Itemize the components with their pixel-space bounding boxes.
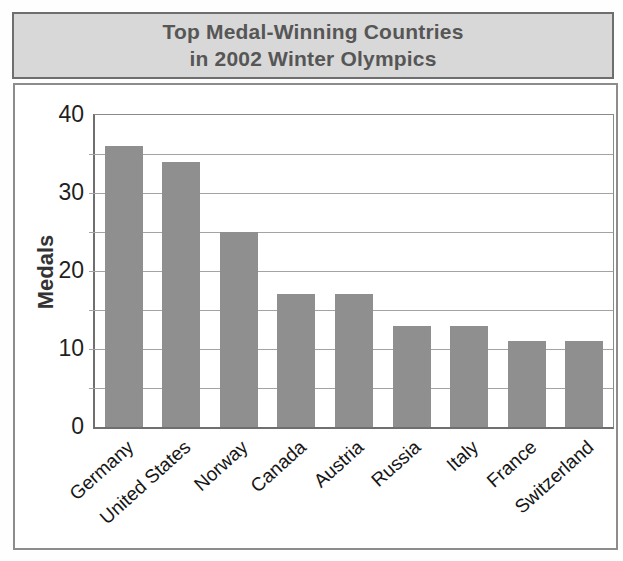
x-axis-label-austria: Austria [310,437,367,491]
bar-canada [277,294,315,427]
x-axis-label-canada: Canada [247,437,309,496]
bar-italy [450,326,488,427]
y-tick-label-40: 40 [28,103,84,126]
bar-germany [105,146,143,427]
gridline-35 [89,154,613,155]
x-axis-label-russia: Russia [368,437,424,490]
bar-switzerland [565,341,603,427]
bar-norway [220,232,258,427]
bar-france [508,341,546,427]
x-axis-label-italy: Italy [443,437,482,474]
chart-figure: Top Medal-Winning Countries in 2002 Wint… [0,0,623,561]
y-tick-label-30: 30 [28,181,84,204]
chart-box: Medals 010203040 GermanyUnited StatesNor… [13,83,618,550]
chart-title-box: Top Medal-Winning Countries in 2002 Wint… [12,12,614,79]
bar-austria [335,294,373,427]
plot-area [93,114,614,429]
y-tick-label-0: 0 [28,415,84,438]
x-axis-label-norway: Norway [191,437,252,494]
chart-title-line-2: in 2002 Winter Olympics [189,46,436,73]
bar-russia [393,326,431,427]
chart-title-line-1: Top Medal-Winning Countries [162,19,463,46]
y-tick-label-10: 10 [28,337,84,360]
y-tick-label-20: 20 [28,259,84,282]
bar-united-states [162,162,200,427]
